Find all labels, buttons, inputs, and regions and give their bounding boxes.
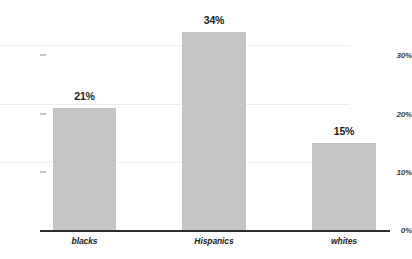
plot-area [40,10,390,230]
bar-value-hispanics: 34% [182,14,246,26]
bar-whites [312,143,376,231]
x-axis-label-hispanics: Hispanics [182,236,246,246]
bar-chart: 30% 20% 10% 0% 21% 34% 15% blacks Hispan… [0,0,412,259]
bar-hispanics [182,32,246,230]
bar-value-whites: 15% [312,125,376,137]
x-axis-label-whites: whites [312,236,376,246]
bar-blacks [53,108,116,231]
x-axis-label-blacks: blacks [53,236,116,246]
x-axis-line [40,230,390,232]
bar-value-blacks: 21% [53,90,116,102]
